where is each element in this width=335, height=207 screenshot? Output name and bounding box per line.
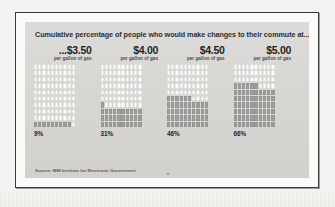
waffle-cell [105,83,108,89]
waffle-cell [59,70,62,76]
waffle-cell [188,102,191,108]
waffle-cell [238,83,241,89]
waffle-cell [175,102,178,108]
waffle-cell [130,109,133,115]
waffle-cell [121,122,124,128]
waffle-cell [63,64,66,70]
waffle-cell [134,70,137,76]
waffle-cell [267,90,270,96]
waffle-cell [101,83,104,89]
waffle-cell [263,70,266,76]
waffle-cell [51,109,54,115]
waffle-cell [192,96,195,102]
waffle-cell [196,96,199,102]
waffle-cell [242,83,245,89]
waffle-cell [250,109,253,115]
waffle-chart-columns: ...$3.50per gallon of gas9%$4.00per gall… [34,45,300,138]
waffle-cell [109,77,112,83]
waffle-cell [138,102,141,108]
waffle-cell [242,109,245,115]
waffle-cell [205,70,208,76]
waffle-cell [267,77,270,83]
waffle-cell [63,77,66,83]
waffle-cell [180,102,183,108]
waffle-cell [72,102,75,108]
waffle-cell [113,109,116,115]
waffle-cell [63,102,66,108]
waffle-cell [242,70,245,76]
waffle-cell [259,122,262,128]
waffle-cell [126,102,129,108]
waffle-cell [68,90,71,96]
waffle-cell [271,102,274,108]
waffle-cell [250,96,253,102]
waffle-cell [109,109,112,115]
waffle-cell [171,109,174,115]
waffle-cell [109,96,112,102]
waffle-cell [171,90,174,96]
waffle-cell [175,70,178,76]
waffle-cell [72,122,75,128]
waffle-cell [180,64,183,70]
waffle-cell [246,102,249,108]
waffle-cell [130,102,133,108]
per-gallon-label: per gallon of gas [101,56,168,62]
waffle-cell [238,90,241,96]
waffle-cell [238,96,241,102]
waffle-cell [121,109,124,115]
waffle-cell [101,64,104,70]
waffle-cell [121,102,124,108]
waffle-column-2: $4.00per gallon of gas31% [101,45,168,138]
waffle-cell [184,122,187,128]
waffle-cell [72,109,75,115]
waffle-cell [254,90,257,96]
waffle-cell [171,122,174,128]
waffle-cell [271,90,274,96]
waffle-cell [121,83,124,89]
waffle-cell [259,90,262,96]
waffle-cell [205,77,208,83]
waffle-column-1: ...$3.50per gallon of gas9% [34,45,101,138]
waffle-cell [167,64,170,70]
waffle-cell [196,115,199,121]
waffle-cell [134,83,137,89]
waffle-cell [259,77,262,83]
waffle-cell [55,96,58,102]
waffle-cell [51,77,54,83]
waffle-cell [138,122,141,128]
waffle-cell [271,109,274,115]
waffle-cell [171,115,174,121]
waffle-cell [126,96,129,102]
waffle-cell [254,70,257,76]
waffle-cell [188,122,191,128]
waffle-cell [205,122,208,128]
scanned-page: Cumulative percentage of people who woul… [0,0,335,207]
waffle-cell [38,102,41,108]
waffle-cell [130,90,133,96]
waffle-cell [63,70,66,76]
waffle-cell [175,96,178,102]
waffle-cell [42,83,45,89]
waffle-cell [109,83,112,89]
waffle-cell [34,83,37,89]
waffle-cell [192,122,195,128]
waffle-cell [263,83,266,89]
waffle-cell [246,115,249,121]
waffle-cell [201,83,204,89]
waffle-cell [167,96,170,102]
waffle-cell [72,90,75,96]
waffle-cell [126,77,129,83]
waffle-cell [130,96,133,102]
waffle-cell [196,64,199,70]
waffle-cell [105,109,108,115]
waffle-cell [55,77,58,83]
waffle-cell [238,77,241,83]
waffle-cell [126,122,129,128]
waffle-cell [117,83,120,89]
waffle-cell [51,70,54,76]
waffle-cell [117,77,120,83]
waffle-cell [234,96,237,102]
waffle-cell [47,102,50,108]
waffle-cell [101,122,104,128]
waffle-cell [192,83,195,89]
